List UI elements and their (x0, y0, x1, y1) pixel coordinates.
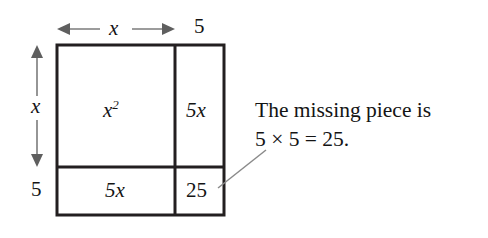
left-five-label: 5 (31, 179, 42, 200)
cell-label-bottom-left-5x: 5x (105, 180, 125, 201)
top-x-label: x (109, 18, 118, 39)
multiplication-sign-icon: × (271, 127, 283, 151)
top-five-label: 5 (194, 16, 205, 37)
equals-sign-icon: = (305, 127, 317, 151)
annotation-result: 25. (322, 127, 349, 151)
cell-x-exponent: 2 (112, 97, 119, 112)
cell-label-bottom-right-25: 25 (186, 180, 207, 201)
cell-label-x-squared: x2 (103, 100, 119, 121)
cell-x-base: x (103, 98, 112, 122)
annotation-operand-a: 5 (255, 127, 266, 151)
annotation-line-2: 5 × 5 = 25. (255, 125, 480, 154)
annotation-text: The missing piece is 5 × 5 = 25. (255, 96, 480, 153)
left-x-label: x (31, 96, 40, 117)
annotation-line-1: The missing piece is (255, 96, 480, 125)
annotation-operand-b: 5 (289, 127, 300, 151)
cell-25-value: 25 (186, 178, 207, 202)
cell-label-top-right-5x: 5x (186, 100, 206, 121)
figure-canvas: x 5 x 5 x2 5x 5x 25 The missing piece is… (0, 0, 488, 238)
